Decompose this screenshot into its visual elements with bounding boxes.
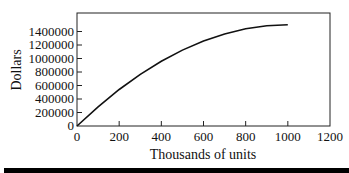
y-tick-label: 200000 [35,105,74,120]
y-axis-ticks: 0200000400000600000800000100000012000001… [29,24,83,134]
x-tick-label: 1200 [317,129,343,144]
x-axis-ticks: 020040060080010001200 [74,121,343,144]
plot-frame [77,13,330,126]
x-tick-label: 0 [74,129,81,144]
data-line [77,25,288,126]
y-tick-label: 800000 [35,64,74,79]
y-tick-label: 1200000 [29,37,75,52]
y-axis-label: Dollars [9,49,24,90]
x-axis-label: Thousands of units [150,147,257,162]
bottom-border-bar [4,168,349,173]
x-tick-label: 600 [194,129,214,144]
y-tick-label: 1400000 [29,24,75,39]
x-tick-label: 1000 [275,129,301,144]
x-tick-label: 400 [152,129,172,144]
y-tick-label: 400000 [35,91,74,106]
y-tick-label: 600000 [35,78,74,93]
chart: 0200000400000600000800000100000012000001… [0,0,349,173]
y-tick-label: 1000000 [29,51,75,66]
x-tick-label: 200 [109,129,129,144]
x-tick-label: 800 [236,129,256,144]
